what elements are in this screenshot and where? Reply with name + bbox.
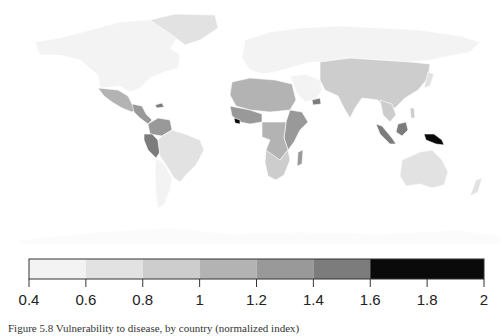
region-borneo bbox=[396, 122, 408, 136]
legend-bin bbox=[200, 259, 257, 279]
figure-caption: Figure 5.8 Vulnerability to disease, by … bbox=[8, 322, 503, 336]
region-australia bbox=[400, 150, 448, 188]
legend-bin bbox=[313, 259, 370, 279]
legend-tick-label: 2 bbox=[480, 291, 488, 308]
legend-tick-label: 0.4 bbox=[19, 291, 40, 308]
legend-bin bbox=[370, 259, 484, 279]
region-north-america bbox=[35, 20, 180, 92]
legend-tick-label: 1.6 bbox=[360, 291, 381, 308]
legend-bin bbox=[257, 259, 314, 279]
legend-bin bbox=[29, 259, 86, 279]
legend-bin bbox=[143, 259, 200, 279]
region-mexico bbox=[98, 88, 138, 112]
world-map bbox=[0, 0, 503, 250]
legend-tick-label: 0.6 bbox=[75, 291, 96, 308]
region-antarctica bbox=[20, 228, 500, 244]
region-east-africa bbox=[284, 110, 308, 150]
legend-tick-label: 1.2 bbox=[246, 291, 267, 308]
region-madagascar bbox=[297, 150, 303, 166]
region-philippines bbox=[410, 108, 415, 118]
region-north-africa bbox=[230, 78, 296, 112]
region-caribbean bbox=[155, 103, 164, 108]
region-sumatra bbox=[376, 124, 396, 144]
legend-tick-label: 1.8 bbox=[417, 291, 438, 308]
legend-tick-label: 1.4 bbox=[303, 291, 324, 308]
region-png bbox=[424, 134, 444, 145]
legend-tick-label: 0.8 bbox=[132, 291, 153, 308]
legend-tick-label: 1 bbox=[195, 291, 203, 308]
region-new-zealand bbox=[470, 178, 482, 196]
color-legend: 0.40.60.811.21.41.61.82 bbox=[0, 250, 503, 310]
region-peru-ecuador bbox=[144, 134, 160, 158]
region-central-america bbox=[132, 104, 152, 124]
legend-bin bbox=[86, 259, 143, 279]
